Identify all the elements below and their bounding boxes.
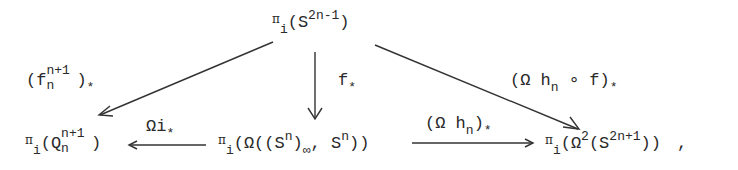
node-bottom-left: πi(Qn+1n) [25, 135, 101, 152]
label-middle-to-right: (Ω hn)* [425, 115, 492, 132]
arrow-top-to-left [100, 42, 273, 115]
label-top-to-left: (fn+1n)* [26, 72, 94, 89]
pi-symbol: π [272, 12, 280, 26]
pi-symbol: π [25, 133, 33, 147]
node-bottom-middle: πi(Ω((Sn)∞, Sn)) [218, 135, 369, 152]
pi-symbol: π [218, 133, 226, 147]
trailing-comma: , [677, 134, 687, 153]
label-middle-to-left: Ωi* [146, 118, 174, 135]
label-top-to-middle: f* [338, 72, 356, 89]
node-top: πi(S2n-1) [272, 14, 350, 31]
label-top-to-right: (Ω hn ∘ f)* [510, 72, 617, 89]
pi-symbol: π [545, 133, 553, 147]
node-bottom-right: πi(Ω2(S2n+1)), [545, 135, 687, 152]
